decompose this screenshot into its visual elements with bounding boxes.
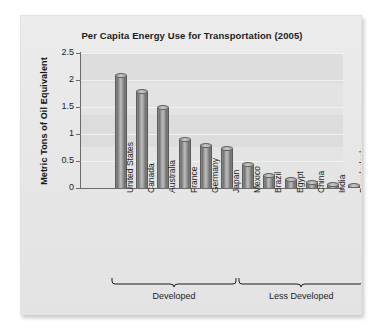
y-tick-mark (76, 53, 81, 54)
gridline (81, 53, 343, 54)
group-label: Less Developed (238, 291, 362, 301)
bar-cap (157, 105, 169, 110)
y-tick-mark (76, 188, 81, 189)
chart-card: Per Capita Energy Use for Transportation… (20, 15, 362, 315)
x-axis-label: Bangladesh (358, 148, 362, 193)
y-tick-label: 2.5 (34, 47, 74, 57)
y-tick-mark (76, 134, 81, 135)
bar-cap (136, 89, 148, 94)
bar-cap (221, 146, 233, 151)
x-axis-label: China (316, 171, 326, 193)
x-axis-label: Australia (167, 160, 177, 193)
group-bracket (238, 278, 362, 288)
x-axis-label: India (337, 175, 347, 193)
y-tick-label: 1 (34, 128, 74, 138)
x-axis-label: Mexico (252, 166, 262, 193)
x-axis-label: Egypt (295, 171, 305, 193)
y-tick-mark (76, 80, 81, 81)
x-axis-label: Germany (210, 158, 220, 193)
y-tick-label: 1.5 (34, 101, 74, 111)
bar-cap (115, 73, 127, 78)
y-tick-mark (76, 161, 81, 162)
x-axis-label: Canada (146, 163, 156, 193)
x-axis-label: France (189, 167, 199, 193)
y-axis-line (80, 52, 81, 189)
x-axis-label: United States (125, 142, 135, 193)
y-tick-label: 2 (34, 74, 74, 84)
y-tick-mark (76, 107, 81, 108)
chart-figure: Per Capita Energy Use for Transportation… (0, 0, 383, 333)
bar-cap (200, 143, 212, 148)
x-axis-label: Brazil (273, 172, 283, 193)
x-axis-label: Japan (231, 170, 241, 193)
y-tick-label: 0.5 (34, 155, 74, 165)
y-tick-label: 0 (34, 182, 74, 192)
bar-cap (179, 137, 191, 142)
group-label: Developed (111, 291, 237, 301)
group-bracket (111, 278, 237, 288)
y-axis-ticks: 00.511.522.5 (31, 16, 76, 315)
